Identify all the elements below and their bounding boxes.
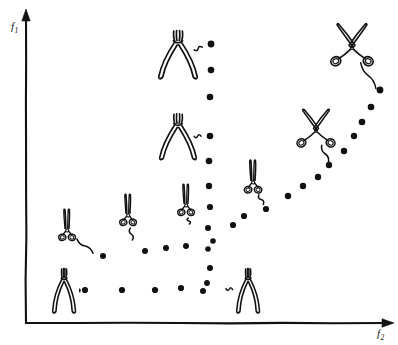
pareto-point — [206, 158, 213, 165]
pareto-point — [207, 133, 214, 140]
scissors-stroke — [303, 109, 319, 130]
scissors-stroke — [183, 184, 185, 203]
pliers-stroke — [179, 31, 180, 41]
scissors-ring-right-inner-icon — [189, 210, 194, 214]
scissors-stroke — [304, 132, 314, 140]
pareto-point — [205, 225, 211, 231]
scissors-open-icon — [296, 109, 337, 148]
pareto-point — [341, 148, 347, 154]
scissors-open-icon — [329, 24, 374, 67]
pareto-point — [359, 119, 366, 126]
scissors-ring-left-inner-icon — [179, 210, 184, 214]
scissors-stroke — [254, 160, 256, 180]
pareto-point — [368, 104, 375, 111]
pliers-open-icon — [159, 31, 198, 79]
annotation-leader-line — [194, 46, 202, 50]
pliers-stroke — [182, 42, 198, 78]
scissors-ring-right-inner-icon — [365, 58, 372, 65]
pliers-closed-icon — [53, 269, 76, 313]
pareto-front-figure: f1f2 — [0, 0, 398, 345]
pliers-stroke — [176, 31, 177, 41]
pliers-stroke — [181, 125, 196, 160]
scissors-ring-left-inner-icon — [332, 58, 339, 65]
scissors-stroke — [317, 132, 327, 140]
pareto-point — [205, 246, 211, 252]
annotation-leader-line — [187, 218, 190, 224]
scissors-ring-left-icon — [177, 208, 185, 216]
pliers-stroke — [174, 114, 175, 124]
pliers-stroke — [160, 125, 175, 160]
pareto-point — [152, 287, 158, 293]
pliers-stroke — [66, 279, 75, 312]
scissors-stroke — [187, 184, 189, 203]
scissors-stroke — [349, 24, 366, 47]
scissors-ring-right-inner-icon — [131, 220, 136, 224]
scissors-ring-left-icon — [244, 186, 253, 194]
scissors-closed-icon — [244, 160, 263, 194]
pareto-point — [210, 238, 216, 244]
scissors-ring-left-icon — [58, 233, 66, 241]
x-axis-arrowhead — [382, 319, 394, 327]
scissors-stroke — [125, 194, 127, 213]
scissors-closed-icon — [177, 184, 195, 216]
pliers-stroke — [179, 114, 180, 124]
pareto-point — [82, 287, 88, 293]
scissors-stroke — [314, 109, 330, 130]
scissors-ring-right-inner-icon — [70, 235, 75, 239]
scissors-ring-right-icon — [68, 233, 76, 241]
scissors-ring-left-inner-icon — [60, 235, 65, 239]
pareto-point — [183, 243, 189, 249]
scissors-stroke — [337, 24, 354, 47]
scissors-ring-right-icon — [254, 186, 263, 194]
pareto-point — [263, 206, 269, 212]
scissors-ring-left-inner-icon — [298, 140, 305, 146]
scissors-closed-icon — [58, 209, 76, 241]
pliers-stroke — [237, 279, 246, 312]
annotation-leader-line — [258, 195, 263, 205]
pareto-point — [241, 213, 247, 219]
pareto-point — [178, 285, 184, 291]
pliers-stroke — [159, 42, 175, 78]
pliers-stroke — [176, 114, 177, 124]
pareto-point — [204, 280, 210, 286]
scissors-stroke — [129, 194, 131, 213]
pliers-stroke — [250, 279, 259, 312]
scissors-ring-right-inner-icon — [256, 188, 261, 192]
annotation-leader-line — [226, 288, 233, 291]
annotation-leader-line — [77, 239, 93, 253]
pareto-point — [300, 183, 306, 189]
pliers-closed-icon — [237, 269, 260, 313]
x-axis-label: f2 — [377, 327, 384, 342]
pareto-point — [206, 183, 212, 189]
pareto-point — [142, 248, 148, 254]
pareto-point — [207, 94, 214, 101]
scissors-closed-icon — [119, 194, 137, 226]
annotation-leader-line — [129, 228, 133, 240]
tool-annotations-group — [53, 24, 376, 313]
pareto-point — [208, 41, 215, 48]
pareto-point — [377, 87, 384, 94]
pliers-stroke — [181, 114, 182, 124]
y-axis-arrowhead — [22, 9, 30, 21]
scissors-ring-right-icon — [129, 218, 137, 226]
pliers-stroke — [245, 269, 246, 278]
pareto-point — [208, 67, 215, 74]
scissors-stroke — [250, 160, 252, 180]
annotation-leader-line — [194, 135, 201, 138]
scissors-ring-left-icon — [119, 218, 127, 226]
pareto-point — [207, 265, 213, 271]
scissors-ring-right-inner-icon — [327, 140, 334, 146]
pliers-stroke — [250, 269, 251, 278]
pareto-point — [230, 222, 236, 228]
pareto-point — [119, 287, 125, 293]
x-axis-line — [26, 323, 385, 324]
pareto-point — [285, 193, 291, 199]
figure-canvas: f1f2 — [0, 0, 398, 345]
scissors-stroke — [339, 49, 351, 58]
annotation-leader-line — [322, 145, 329, 162]
pareto-point — [315, 174, 321, 180]
scissors-ring-left-inner-icon — [246, 188, 251, 192]
pliers-stroke — [174, 31, 175, 41]
pareto-point — [163, 245, 169, 251]
pliers-stroke — [53, 279, 62, 312]
